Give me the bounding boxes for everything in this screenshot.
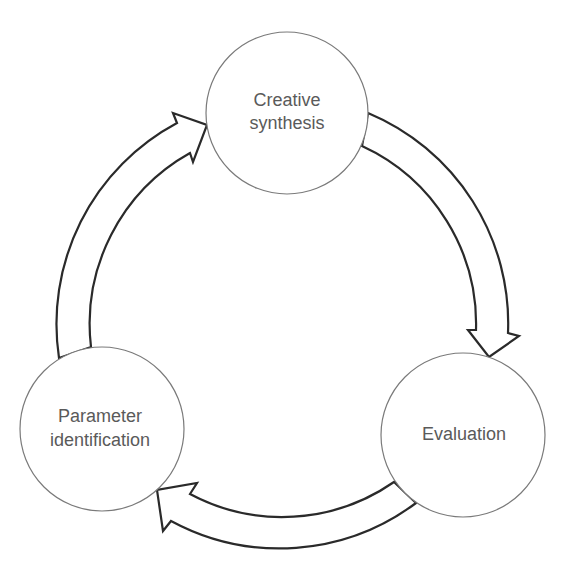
arrow-synthesis-to-evaluation bbox=[362, 113, 519, 357]
node-creative-synthesis: Creative synthesis bbox=[206, 32, 368, 194]
arrow-evaluation-to-parameter bbox=[157, 482, 416, 548]
node-label-line-1: Parameter bbox=[58, 406, 142, 426]
node-label-line-1: Creative bbox=[253, 90, 320, 110]
node-label-line-2: synthesis bbox=[249, 113, 324, 133]
node-parameter-identification: Parameter identification bbox=[20, 347, 184, 511]
arrow-parameter-to-synthesis bbox=[56, 113, 207, 358]
node-label-line-1: Evaluation bbox=[422, 424, 506, 444]
node-label-line-2: identification bbox=[50, 430, 150, 450]
cycle-diagram: Creative synthesis Evaluation Parameter … bbox=[0, 0, 566, 577]
node-evaluation: Evaluation bbox=[381, 353, 545, 517]
